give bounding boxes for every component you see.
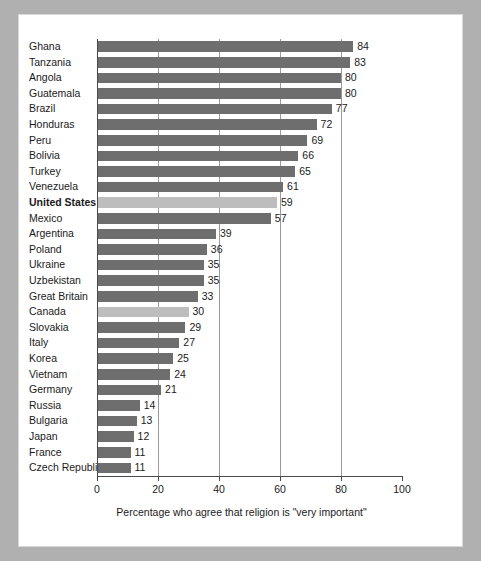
bar [97, 119, 317, 130]
category-label: Ukraine [29, 257, 97, 273]
bar-row: Poland36 [19, 242, 464, 258]
bar [97, 400, 140, 411]
bar-value-label: 83 [354, 55, 366, 71]
x-tick-label: 20 [138, 483, 178, 495]
bar [97, 307, 189, 318]
x-tick-mark [219, 476, 220, 481]
x-tick-mark [341, 476, 342, 481]
bar-row: Czech Republic11 [19, 460, 464, 476]
bar-value-label: 80 [345, 70, 357, 86]
bar-value-label: 66 [302, 148, 314, 164]
bar [97, 431, 134, 442]
bar-value-label: 30 [193, 304, 205, 320]
bar [97, 166, 295, 177]
bar [97, 447, 131, 458]
bar-chart: Percentage who agree that religion is "v… [19, 15, 464, 548]
bar [97, 135, 307, 146]
bar [97, 229, 216, 240]
bar-row: United States59 [19, 195, 464, 211]
bar-value-label: 33 [202, 289, 214, 305]
x-tick-mark [402, 476, 403, 481]
category-label: Bolivia [29, 148, 97, 164]
bar [97, 463, 131, 474]
bar-value-label: 35 [208, 273, 220, 289]
bar [97, 244, 207, 255]
bar-row: Turkey65 [19, 164, 464, 180]
bar-row: Ghana84 [19, 39, 464, 55]
category-label: Czech Republic [29, 460, 97, 476]
category-label: Russia [29, 398, 97, 414]
y-axis-line [97, 39, 98, 476]
bar-row: Argentina39 [19, 226, 464, 242]
category-label: Germany [29, 382, 97, 398]
category-label: Korea [29, 351, 97, 367]
bar [97, 416, 137, 427]
bar-value-label: 72 [321, 117, 333, 133]
bar [97, 182, 283, 193]
x-tick-label: 0 [77, 483, 117, 495]
bar-row: Brazil77 [19, 101, 464, 117]
bar-row: Ukraine35 [19, 257, 464, 273]
bar-row: Mexico57 [19, 211, 464, 227]
category-label: Vietnam [29, 367, 97, 383]
bar [97, 151, 298, 162]
category-label: Italy [29, 335, 97, 351]
bar-row: Honduras72 [19, 117, 464, 133]
bar [97, 338, 179, 349]
category-label: Peru [29, 133, 97, 149]
category-label: Bulgaria [29, 413, 97, 429]
bar [97, 353, 173, 364]
category-label: Mexico [29, 211, 97, 227]
category-label: Turkey [29, 164, 97, 180]
category-label: Poland [29, 242, 97, 258]
x-tick-mark [158, 476, 159, 481]
bar-value-label: 84 [357, 39, 369, 55]
bar-value-label: 61 [287, 179, 299, 195]
bar-value-label: 25 [177, 351, 189, 367]
x-tick-label: 100 [382, 483, 422, 495]
category-label: Honduras [29, 117, 97, 133]
bar-value-label: 80 [345, 86, 357, 102]
bar-row: Peru69 [19, 133, 464, 149]
bar-value-label: 11 [135, 460, 146, 476]
category-label: Guatemala [29, 86, 97, 102]
bar-row: Slovakia29 [19, 320, 464, 336]
bar-row: Vietnam24 [19, 367, 464, 383]
category-label: Angola [29, 70, 97, 86]
bar-row: Venezuela61 [19, 179, 464, 195]
bar-row: Italy27 [19, 335, 464, 351]
bar [97, 369, 170, 380]
category-label: United States [29, 195, 97, 211]
bar-value-label: 69 [311, 133, 323, 149]
bar-value-label: 39 [220, 226, 232, 242]
bar [97, 275, 204, 286]
figure-frame: Percentage who agree that religion is "v… [0, 0, 481, 561]
bar [97, 291, 198, 302]
category-label: Venezuela [29, 179, 97, 195]
bar-row: Bolivia66 [19, 148, 464, 164]
bar-row: Japan12 [19, 429, 464, 445]
bar [97, 197, 277, 208]
bar-row: Russia14 [19, 398, 464, 414]
x-axis-line [97, 476, 402, 477]
bar-value-label: 36 [211, 242, 223, 258]
category-label: Great Britain [29, 289, 97, 305]
category-label: Uzbekistan [29, 273, 97, 289]
bar-value-label: 14 [144, 398, 156, 414]
bar [97, 385, 161, 396]
category-label: Japan [29, 429, 97, 445]
bar-row: Uzbekistan35 [19, 273, 464, 289]
category-label: Argentina [29, 226, 97, 242]
bar [97, 41, 353, 52]
category-label: Canada [29, 304, 97, 320]
bar-row: Guatemala80 [19, 86, 464, 102]
bar [97, 57, 350, 68]
bar-value-label: 35 [208, 257, 220, 273]
x-tick-mark [280, 476, 281, 481]
x-tick-label: 60 [260, 483, 300, 495]
x-tick-label: 80 [321, 483, 361, 495]
bar [97, 73, 341, 84]
x-tick-label: 40 [199, 483, 239, 495]
bar [97, 88, 341, 99]
bar-value-label: 57 [275, 211, 287, 227]
